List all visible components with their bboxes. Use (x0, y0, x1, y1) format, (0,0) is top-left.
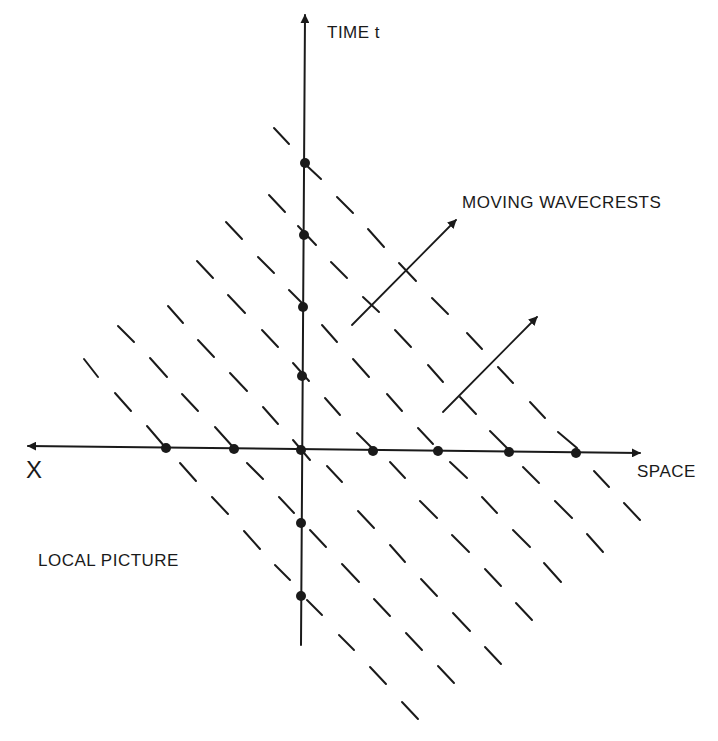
wavecrest-dash (279, 497, 294, 513)
wavecrest-dash (452, 535, 469, 552)
lattice-dot (298, 302, 308, 312)
lattice-dot (229, 444, 239, 454)
lattice-dot (571, 448, 581, 458)
wavecrest-dash (215, 427, 233, 447)
wavecrest-dash (230, 373, 247, 391)
wavecrest-dashes (84, 128, 640, 719)
wavecrest-dash (374, 599, 390, 616)
lattice-dot (161, 443, 171, 453)
local-picture-label: LOCAL PICTURE (38, 551, 179, 571)
lattice-dot (299, 230, 309, 240)
wavecrest-dash (450, 462, 467, 478)
wavecrest-dash (513, 530, 530, 547)
wavecrest-dash (262, 330, 278, 347)
wavecrest-dash (418, 428, 433, 444)
lattice-dot (300, 158, 310, 168)
wavecrest-dash (269, 195, 285, 212)
wavecrest-dash (247, 463, 263, 479)
wavecrest-dash (368, 229, 384, 247)
wavecrest-motion-arrow-2 (443, 317, 537, 412)
wavecrest-dash (390, 545, 405, 562)
wavecrest-dash (263, 407, 278, 424)
lattice-dot (368, 446, 378, 456)
wavecrest-dash (310, 530, 326, 547)
wavecrest-dash (307, 600, 322, 615)
wavecrest-dash (180, 463, 196, 481)
wavecrest-dash (490, 431, 507, 448)
wavecrest-motion-arrows (352, 220, 537, 412)
wavecrest-dash (399, 263, 416, 281)
wavecrest-dash (244, 531, 260, 549)
wavecrest-dash (342, 564, 359, 582)
wavecrest-dash (212, 497, 228, 514)
wavecrest-dash (485, 569, 501, 586)
wavecrest-dash (331, 262, 347, 278)
lattice-dot (504, 447, 514, 457)
wavecrest-dash (402, 702, 418, 719)
wavecrest-dash (530, 402, 545, 418)
wavecrest-dash (197, 261, 213, 278)
wavecrest-dash (118, 326, 134, 342)
wavecrest-dash (406, 633, 422, 650)
wavecrest-dash (150, 358, 167, 377)
wavecrest-dash (325, 398, 340, 415)
spacetime-diagram (0, 0, 718, 741)
wavecrest-dash (420, 501, 437, 518)
wavecrest-dash (594, 471, 609, 487)
space-axis (28, 446, 640, 453)
lattice-dot (297, 371, 307, 381)
wavecrest-motion-arrow-1 (352, 220, 456, 325)
wavecrest-dash (275, 565, 290, 580)
wavecrest-dash (544, 563, 561, 582)
wavecrest-dash (274, 128, 289, 144)
wavecrest-dash (339, 635, 354, 650)
wavecrest-dash (432, 298, 448, 314)
wavecrest-dash (306, 165, 321, 179)
lattice-dot (433, 446, 443, 456)
wavecrest-dash (390, 462, 405, 478)
time-axis-label: TIME t (327, 23, 380, 43)
wavecrest-dash (438, 666, 454, 683)
wavecrest-dash (115, 393, 131, 411)
wavecrest-dash (558, 432, 577, 448)
time-axis (301, 15, 305, 645)
wavecrest-dash (258, 257, 274, 273)
wavecrest-dash (624, 503, 640, 520)
wavecrest-dash (168, 306, 183, 323)
x-axis-label: X (26, 456, 43, 484)
wavecrest-dash (198, 340, 214, 357)
wavecrest-dash (428, 365, 443, 382)
wavecrest-dash (228, 295, 245, 313)
wavecrest-dash (555, 501, 572, 518)
wavecrest-dash (353, 359, 369, 377)
lattice-dot (296, 591, 306, 601)
wavecrest-dash (84, 359, 98, 377)
wavecrest-dash (182, 394, 198, 411)
space-axis-label: SPACE (637, 462, 696, 482)
wavecrest-dash (327, 466, 342, 482)
wavecrest-dash (421, 579, 437, 596)
wavecrest-dash (587, 534, 603, 552)
wavecrest-dash (395, 330, 411, 347)
wavecrest-dash (358, 511, 374, 528)
wavecrest-dash (322, 325, 337, 342)
wavecrest-dash (453, 613, 470, 631)
wavecrest-dash (523, 467, 539, 483)
wavecrest-dash (147, 426, 165, 447)
wavecrest-dash (516, 603, 532, 620)
wavecrest-dash (337, 197, 353, 213)
lattice-dot (296, 518, 306, 528)
wavecrest-dash (485, 647, 501, 664)
wavecrest-dash (467, 333, 482, 349)
wavecrest-dash (460, 397, 476, 414)
wavecrest-dash (370, 667, 386, 684)
lattice-dot (296, 445, 306, 455)
wavecrest-dash (482, 497, 497, 513)
wavecrest-dash (387, 394, 402, 411)
wavecrest-dash (226, 222, 242, 239)
moving-wavecrests-label: MOVING WAVECRESTS (462, 193, 661, 213)
wavecrest-dash (498, 367, 513, 383)
wavecrest-dash (357, 433, 372, 448)
